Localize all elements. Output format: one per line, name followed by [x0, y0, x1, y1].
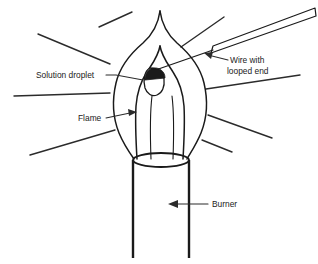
flame-test-diagram: Solution droplet Flame Wire with looped … [0, 0, 318, 264]
wire-label-line1: Wire with [230, 55, 265, 65]
solution-droplet [144, 68, 165, 96]
flame-label-text: Flame [78, 113, 102, 123]
burner-label-text: Burner [212, 199, 237, 209]
diagram-background [0, 0, 318, 264]
wire-label-line2: looped end [227, 66, 269, 76]
solution-droplet-label-text: Solution droplet [36, 70, 95, 80]
diagram-canvas: Solution droplet Flame Wire with looped … [0, 0, 318, 264]
